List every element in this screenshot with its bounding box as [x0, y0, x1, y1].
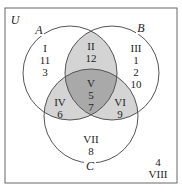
venn-diagram: U A B C I 11 3 II 12 III 1 2 10 IV 6 V 5…: [0, 0, 182, 195]
region-vii-label: VII: [83, 133, 99, 145]
region-viii-element: 4: [155, 156, 161, 168]
region-i-element: 11: [40, 54, 51, 66]
region-vii-element: 8: [88, 145, 94, 157]
set-label-a: A: [34, 23, 43, 37]
region-iii-element: 2: [133, 66, 139, 78]
region-iv-label: IV: [54, 96, 66, 108]
region-ii-label: II: [87, 40, 95, 52]
region-iii-label: III: [131, 42, 142, 54]
region-v-label: V: [87, 77, 95, 89]
region-v-element: 7: [88, 101, 94, 113]
region-i-label: I: [43, 42, 47, 54]
set-label-b: B: [137, 21, 145, 35]
set-label-c: C: [86, 159, 95, 173]
region-v-element: 5: [88, 89, 94, 101]
region-viii-label: VIII: [149, 168, 168, 180]
region-vi-element: 9: [117, 108, 123, 120]
region-ii-element: 12: [86, 52, 97, 64]
region-iii-element: 1: [133, 54, 139, 66]
region-iii-element: 10: [131, 78, 143, 90]
region-i-element: 3: [42, 66, 48, 78]
region-vi-label: VI: [114, 96, 126, 108]
region-iv-element: 6: [57, 108, 63, 120]
universe-label: U: [11, 13, 21, 27]
